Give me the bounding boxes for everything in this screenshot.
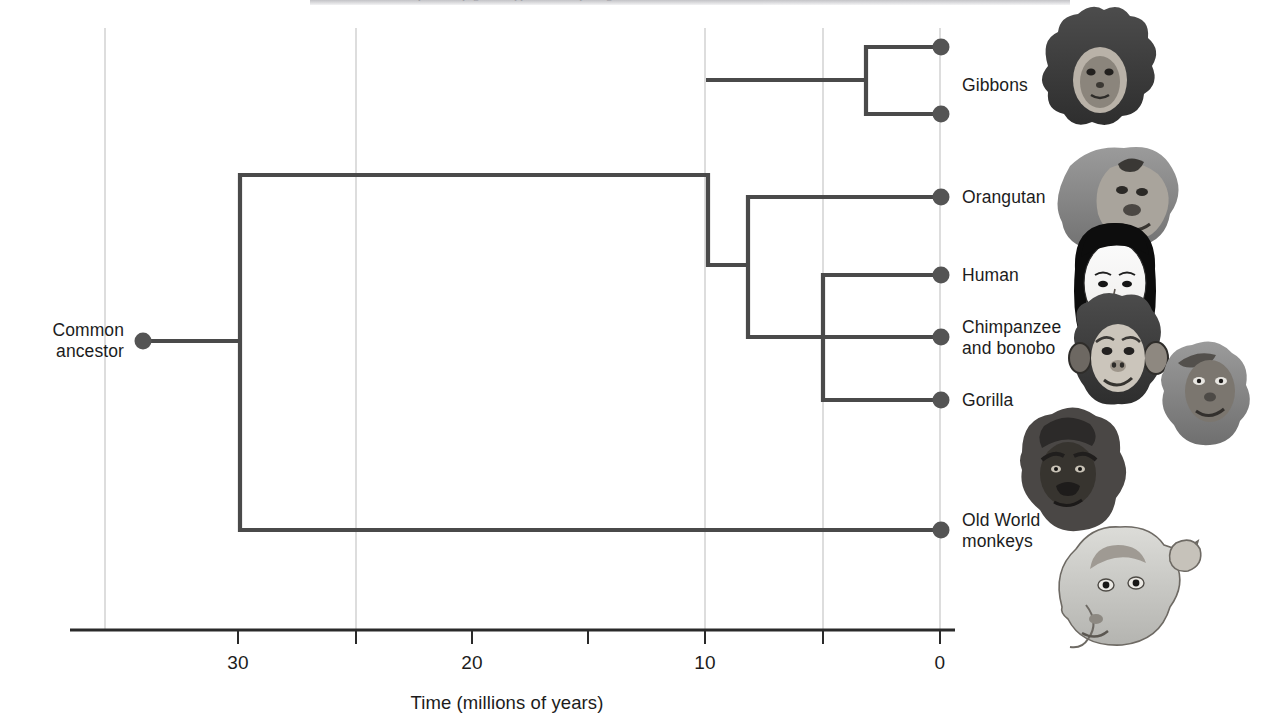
tip-label-chimpanzee-and-bonobo: Chimpanzee and bonobo [962,317,1061,359]
orangutan-eye-right [1136,188,1148,196]
tip-label-old-world-monkeys: Old World monkeys [962,510,1040,552]
node-dot-gibbons-upper [933,39,950,56]
tree-branches [143,45,941,532]
time-axis [70,630,955,644]
tip-label-gorilla: Gorilla [962,390,1013,411]
tip-label-human: Human [962,265,1019,286]
macaque-pupil-left [1103,582,1110,589]
macaque-face-illustration [1059,527,1201,648]
axis-tick-label-10: 10 [675,652,735,674]
chimp-ear-right [1144,342,1168,374]
bonobo-nose [1204,393,1216,402]
chimp-nostril-right [1120,362,1124,368]
gridlines [105,28,940,630]
macaque-pupil-right [1133,580,1140,587]
gibbon-eye-left [1086,68,1095,75]
tip-label-gibbons: Gibbons [962,75,1028,96]
chimp-nostril-left [1112,362,1116,368]
gorilla-face-plate [1040,442,1096,506]
axis-title: Time (millions of years) [347,692,667,714]
node-dot-orangutan [933,189,950,206]
common-ancestor-label: Common ancestor [24,320,124,362]
node-dot-gorilla [933,392,950,409]
macaque-muzzle [1089,614,1103,624]
axis-ticks [238,630,940,644]
bonobo-pupil-left [1197,379,1201,383]
chimp-face-plate [1091,324,1145,392]
gibbon-eye-right [1104,68,1113,75]
node-dot-old-world-monkeys [933,522,950,539]
chimp-eye-left [1102,347,1113,355]
axis-tick-label-20: 20 [442,652,502,674]
figure-canvas: a line of text from the previous page is… [0,0,1263,722]
gibbon-nose [1096,82,1104,88]
tip-label-orangutan: Orangutan [962,187,1046,208]
gorilla-pupil-left [1054,467,1058,471]
bonobo-face-illustration [1161,341,1250,445]
gibbon-face-illustration [1042,7,1156,125]
node-dot-gibbons-lower [933,106,950,123]
chimp-eye-right [1124,347,1135,355]
human-eye-right [1122,281,1132,287]
orangutan-muzzle [1123,204,1141,216]
node-dot-common-ancestor [135,333,152,350]
orangutan-eye-left [1116,186,1128,194]
bonobo-pupil-right [1219,379,1223,383]
chimp-ear-left [1069,343,1091,373]
axis-tick-label-30: 30 [208,652,268,674]
node-dot-chimpanzee [933,329,950,346]
gorilla-pupil-right [1078,467,1082,471]
node-dot-human [933,267,950,284]
axis-tick-label-0: 0 [910,652,970,674]
macaque-ear [1170,540,1201,571]
human-eye-left [1098,281,1108,287]
tree-node-dots [135,39,950,539]
bonobo-face-plate [1185,360,1235,422]
phylogenetic-tree-graphic [0,0,1263,722]
